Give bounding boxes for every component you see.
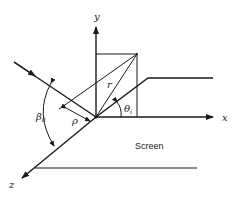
incident-ray-arrow (14, 62, 35, 76)
y-axis-label: y (93, 11, 100, 22)
rho-projection-line (62, 54, 137, 107)
z-axis-label: z (8, 179, 15, 190)
z-axis (22, 117, 96, 178)
screen-top-edge (96, 78, 213, 117)
observation-point (136, 53, 138, 55)
rho-tick (59, 105, 65, 109)
x-axis-label: x (222, 112, 228, 123)
rho-label: ρ (71, 115, 78, 126)
theta-angle-arc (117, 102, 121, 117)
screen-label: Screen (135, 141, 164, 151)
r-label: r (107, 79, 113, 90)
diffraction-geometry-diagram: y x z r ρ β0 θi Screen (0, 0, 237, 202)
origin-point (94, 115, 97, 118)
beta-label: β0 (35, 111, 46, 123)
beta-angle-arc (43, 83, 54, 146)
theta-label: θi (124, 103, 132, 115)
